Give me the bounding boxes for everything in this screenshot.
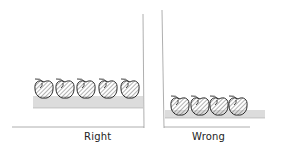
right-wall-line	[143, 14, 144, 128]
apple-icon	[56, 79, 74, 98]
apple-row	[35, 79, 139, 98]
apple-icon	[35, 79, 53, 98]
panel-label-wrong: Wrong	[192, 131, 225, 142]
apple-icon	[121, 79, 139, 98]
apple-icon	[77, 79, 95, 98]
apple-icon	[191, 96, 209, 115]
apple-icon	[210, 96, 228, 115]
apple-icon	[229, 96, 247, 115]
panel-label-right: Right	[84, 131, 111, 142]
left-wall-line	[162, 10, 164, 128]
apple-icon	[99, 79, 117, 98]
panel-right	[12, 14, 144, 128]
sketch-canvas	[0, 0, 281, 158]
apple-icon	[171, 96, 189, 115]
panel-wrong	[162, 10, 265, 128]
